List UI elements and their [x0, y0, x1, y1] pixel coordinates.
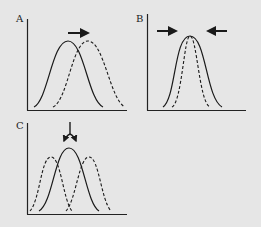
panel-a-solid-curve [34, 41, 103, 107]
panel-c [27, 122, 127, 215]
panel-c-split-arrow-icon [64, 122, 76, 141]
panel-b-solid-curve [163, 36, 222, 107]
selection-diagram [0, 0, 261, 227]
panel-a [27, 19, 127, 111]
panel-a-dashed-curve [53, 41, 125, 107]
panel-c-dashed-left-curve [30, 157, 72, 211]
panel-b-dashed-curve [172, 36, 210, 107]
panel-b [147, 14, 246, 111]
panel-c-dashed-right-curve [66, 157, 111, 211]
